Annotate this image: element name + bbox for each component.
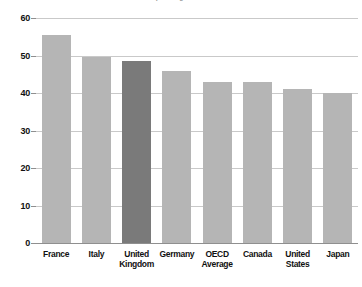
y-axis-tick-label: 0 xyxy=(8,239,30,248)
bar-chart: Public sector spending in selected count… xyxy=(0,0,362,287)
x-axis-tick-labels: FranceItalyUnited KingdomGermanyOECD Ave… xyxy=(36,249,358,287)
x-axis-tick-label: Canada xyxy=(237,249,277,259)
bar xyxy=(323,93,352,243)
y-axis-tick xyxy=(31,206,36,207)
gridline xyxy=(36,18,358,19)
y-axis-tick-label: 10 xyxy=(8,202,30,211)
y-axis-tick xyxy=(31,168,36,169)
y-axis-tick xyxy=(31,93,36,94)
plot-area xyxy=(36,18,358,243)
y-axis-tick-label: 40 xyxy=(8,89,30,98)
x-axis-tick-label: France xyxy=(36,249,76,259)
x-axis-tick-label: United States xyxy=(278,249,318,269)
bar xyxy=(162,71,191,244)
chart-title: Public sector spending in selected count… xyxy=(0,0,362,1)
y-axis-tick-label: 60 xyxy=(8,14,30,23)
y-axis-tick xyxy=(31,56,36,57)
y-axis-tick-labels: 0102030405060 xyxy=(5,18,30,243)
y-axis-tick xyxy=(31,18,36,19)
bar xyxy=(42,35,71,243)
x-axis-tick-label: Japan xyxy=(318,249,358,259)
y-axis-tick xyxy=(31,131,36,132)
x-axis-tick-label: Germany xyxy=(157,249,197,259)
x-axis-line xyxy=(36,243,358,244)
y-axis-tick-label: 50 xyxy=(8,52,30,61)
x-axis-tick-label: Italy xyxy=(76,249,116,259)
y-axis-tick-label: 30 xyxy=(8,127,30,136)
bar xyxy=(122,61,151,243)
bar xyxy=(203,82,232,243)
gridline xyxy=(36,56,358,57)
x-axis-tick-label: United Kingdom xyxy=(117,249,157,269)
bar xyxy=(82,57,111,243)
bar xyxy=(283,89,312,243)
x-axis-tick-label: OECD Average xyxy=(197,249,237,269)
y-axis-tick-label: 20 xyxy=(8,164,30,173)
bar xyxy=(243,82,272,243)
